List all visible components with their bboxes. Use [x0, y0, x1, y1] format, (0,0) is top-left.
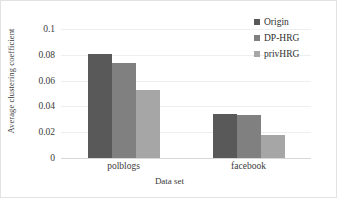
bar-origin-facebook[interactable] — [213, 114, 237, 158]
bar-dp-hrg-polblogs[interactable] — [112, 63, 136, 158]
legend-swatch-icon — [254, 51, 260, 57]
x-axis-baseline — [61, 158, 311, 159]
legend-label: privHRG — [264, 49, 299, 59]
chart-legend: OriginDP-HRGprivHRG — [254, 14, 299, 62]
bar-dp-hrg-facebook[interactable] — [237, 115, 261, 158]
x-axis-title: Data set — [1, 176, 337, 186]
y-axis-tick-label: 0.02 — [38, 127, 55, 137]
bar-chart-figure: Average clustering coefficient 00.020.04… — [0, 0, 337, 198]
legend-swatch-icon — [254, 19, 260, 25]
y-axis-tick-label: 0.08 — [38, 50, 55, 60]
bar-privhrg-polblogs[interactable] — [136, 90, 160, 158]
bar-group-polblogs — [88, 29, 160, 158]
bar-privhrg-facebook[interactable] — [261, 135, 285, 158]
legend-item-origin[interactable]: Origin — [254, 14, 299, 30]
legend-label: Origin — [264, 17, 289, 27]
y-axis-tick-label: 0 — [50, 153, 55, 163]
x-axis-tick-label-polblogs: polblogs — [107, 161, 140, 171]
x-axis-tick-label-facebook: facebook — [231, 161, 266, 171]
y-axis-tick-label: 0.04 — [38, 101, 55, 111]
y-axis-tick-label: 0.06 — [38, 76, 55, 86]
x-axis-tick-labels: polblogsfacebook — [61, 161, 311, 177]
y-axis-tick-label: 0.1 — [43, 24, 55, 34]
legend-swatch-icon — [254, 35, 260, 41]
y-axis-title-label: Average clustering coefficient — [6, 28, 16, 133]
y-axis-tick-labels: 00.020.040.060.080.1 — [21, 1, 59, 198]
bar-origin-polblogs[interactable] — [88, 54, 112, 158]
legend-item-privhrg[interactable]: privHRG — [254, 46, 299, 62]
legend-label: DP-HRG — [264, 33, 299, 43]
y-axis-title: Average clustering coefficient — [1, 1, 21, 161]
legend-item-dp-hrg[interactable]: DP-HRG — [254, 30, 299, 46]
